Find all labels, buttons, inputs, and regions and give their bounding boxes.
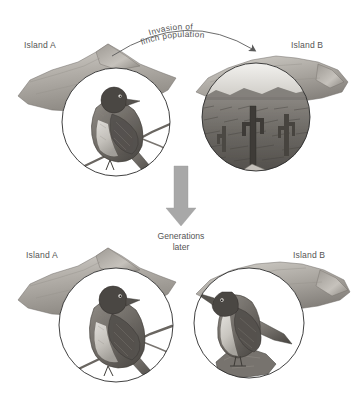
- island-a-bottom-circle: [59, 268, 173, 382]
- figure-canvas: Island A Island B Island A Island B Gene…: [0, 0, 362, 403]
- generations-arrow-icon: [166, 166, 196, 226]
- island-b-top-circle: [202, 63, 312, 180]
- diagram-artwork: Invasion of finch population: [0, 0, 362, 403]
